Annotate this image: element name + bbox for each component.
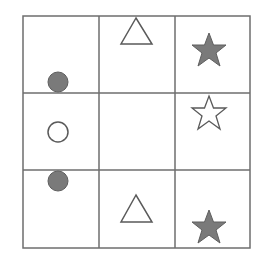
outline-star-icon: [192, 96, 226, 129]
outline-triangle-icon: [121, 18, 152, 44]
filled-star-icon: [192, 210, 226, 243]
outline-circle-icon: [48, 122, 68, 142]
filled-circle-icon: [48, 72, 68, 92]
outline-triangle-icon: [121, 195, 152, 222]
filled-circle-icon: [48, 171, 68, 191]
shape-grid-puzzle: [0, 0, 267, 261]
filled-star-icon: [192, 33, 226, 66]
